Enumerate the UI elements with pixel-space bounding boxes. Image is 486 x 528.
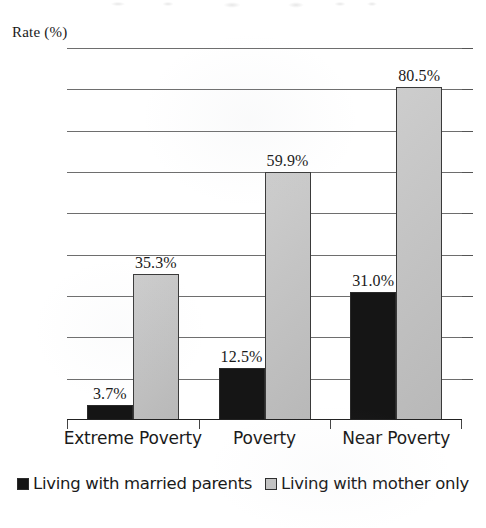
legend-label: Living with mother only: [281, 474, 469, 493]
bar-living-with-married-parents-extreme-poverty: [87, 405, 133, 420]
axis-tick-mark: [462, 172, 473, 173]
bar-living-with-married-parents-near-poverty: [350, 292, 396, 420]
gridline: [67, 48, 462, 49]
bar-value-label: 35.3%: [135, 255, 177, 271]
cut-off-title-remnant: [0, 0, 486, 9]
bar-living-with-married-parents-poverty: [219, 368, 265, 420]
bar-value-label: 12.5%: [221, 349, 263, 365]
black-square-icon: [17, 478, 29, 490]
bar-living-with-mother-only-extreme-poverty: [133, 274, 179, 420]
plot-area: 0102030405060708090 3.7%35.3%12.5%59.9%3…: [67, 48, 462, 420]
x-category-label-extreme-poverty: Extreme Poverty: [64, 428, 202, 448]
legend-entry-2[interactable]: Living with mother only: [265, 474, 469, 493]
bar-value-label: 59.9%: [267, 153, 309, 169]
legend-label: Living with married parents: [33, 474, 252, 493]
bar-living-with-mother-only-poverty: [265, 172, 311, 420]
bar-value-label: 3.7%: [93, 386, 127, 402]
axis-tick-mark: [462, 48, 473, 49]
x-axis-separator: [461, 420, 462, 429]
gray-square-icon: [265, 478, 277, 490]
x-axis-separator: [330, 420, 331, 429]
axis-tick-mark: [462, 131, 473, 132]
x-category-label-poverty: Poverty: [233, 428, 296, 448]
axis-tick-mark: [462, 89, 473, 90]
bar-living-with-mother-only-near-poverty: [396, 87, 442, 420]
axis-tick-mark: [462, 379, 473, 380]
y-axis-caption: Rate (%): [12, 24, 67, 41]
bar-value-label: 31.0%: [352, 273, 394, 289]
axis-tick-mark: [462, 337, 473, 338]
x-axis-baseline: [67, 419, 462, 420]
axis-tick-mark: [462, 213, 473, 214]
x-category-label-near-poverty: Near Poverty: [342, 428, 450, 448]
bar-value-label: 80.5%: [398, 68, 440, 84]
axis-tick-mark: [462, 255, 473, 256]
axis-tick-mark: [462, 296, 473, 297]
chart-legend: Living with married parentsLiving with m…: [0, 474, 486, 493]
legend-entry-1[interactable]: Living with married parents: [17, 474, 252, 493]
